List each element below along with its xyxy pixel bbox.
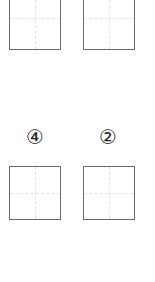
guide-line-horizontal — [84, 193, 134, 194]
circled-number-label-2: ② — [96, 125, 120, 149]
guide-line-vertical — [109, 0, 110, 49]
guide-line-horizontal — [84, 18, 134, 19]
writing-box-top-left — [9, 0, 61, 50]
writing-box-bottom-left — [9, 166, 61, 220]
guide-line-vertical — [35, 0, 36, 49]
guide-line-horizontal — [10, 193, 60, 194]
writing-box-bottom-right — [83, 166, 135, 220]
writing-box-top-right — [83, 0, 135, 50]
guide-line-horizontal — [10, 18, 60, 19]
circled-number-label-4: ④ — [23, 125, 47, 149]
